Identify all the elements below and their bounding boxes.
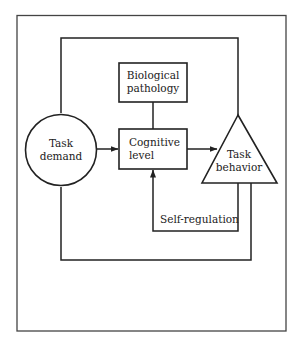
label-self-regulation: Self-regulation: [160, 213, 239, 226]
label-task-demand: Task demand: [31, 137, 91, 163]
label-biological-line1: Biological: [119, 69, 187, 82]
label-cognitive-level: Cognitive level: [129, 136, 180, 162]
label-cognitive-line2: level: [129, 149, 180, 162]
label-task-behavior-line2: behavior: [212, 161, 266, 174]
label-task-demand-line2: demand: [31, 150, 91, 163]
label-task-behavior: Task behavior: [212, 148, 266, 174]
label-biological-line2: pathology: [119, 82, 187, 95]
label-biological-pathology: Biological pathology: [119, 69, 187, 95]
label-task-demand-line1: Task: [31, 137, 91, 150]
label-task-behavior-line1: Task: [212, 148, 266, 161]
label-cognitive-line1: Cognitive: [129, 136, 180, 149]
